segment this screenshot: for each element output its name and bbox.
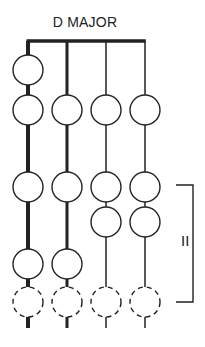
- optional-finger-circle: [52, 287, 82, 317]
- optional-finger-circle: [130, 287, 160, 317]
- finger-positions: [13, 55, 160, 317]
- optional-finger-circle: [91, 287, 121, 317]
- finger-circle: [13, 249, 43, 279]
- position-label: II: [180, 233, 190, 249]
- finger-circle: [52, 249, 82, 279]
- finger-circle: [13, 172, 43, 202]
- finger-circle: [91, 207, 121, 237]
- optional-finger-circle: [13, 287, 43, 317]
- finger-circle: [130, 172, 160, 202]
- finger-circle: [52, 95, 82, 125]
- fingering-chart: [0, 0, 205, 347]
- finger-circle: [130, 207, 160, 237]
- finger-circle: [91, 95, 121, 125]
- finger-circle: [91, 172, 121, 202]
- finger-circle: [130, 95, 160, 125]
- finger-circle: [13, 95, 43, 125]
- finger-circle: [13, 55, 43, 85]
- finger-circle: [52, 172, 82, 202]
- strings: [28, 41, 145, 328]
